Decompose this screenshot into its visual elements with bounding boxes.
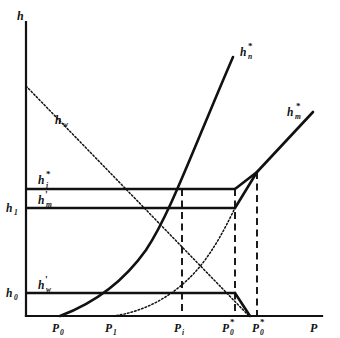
curve-label-hm-star-star: * [296,101,301,111]
hm-star-curve-group [113,112,313,316]
curve-label-hn-star-sub: n [248,52,252,61]
x-tick-label-P0star-b: P 0 * [252,317,265,337]
hm-star-curve-solid-segment [235,112,313,208]
y-tick-h0-base: h [6,287,12,299]
x-tick-P0star-b-sub: 0 [260,328,264,337]
level-label-hw-prime-base: h [38,279,44,291]
y-tick-h1-base: h [6,202,12,214]
chart-svg: h P h 1 h 0 P 0 P 1 P i P 0 * P [0,0,340,338]
hn-star-curve [60,57,233,316]
curve-label-hm-star-sub: m [295,112,301,121]
level-label-hw-prime-mark: ' [45,274,48,285]
x-tick-P0star-a-star: * [230,317,235,327]
x-tick-P0star-b-star: * [260,317,265,327]
level-label-hm-prime-base: h [38,194,44,206]
curve-label-hn-star-base: h [240,46,246,58]
x-tick-Pi-sub: i [182,328,185,337]
x-tick-P0-sub: 0 [60,328,64,337]
y-axis-title: h [17,9,24,23]
y-tick-h0-sub: 0 [14,293,18,302]
hj-kink-to-peak-segment [235,172,257,189]
y-tick-label-h1: h 1 [6,202,18,217]
x-tick-P0star-b-base: P [252,322,260,334]
x-tick-P0star-a-base: P [222,322,230,334]
y-tick-h1-sub: 1 [14,208,18,217]
axes [26,22,322,316]
curve-label-hm-star: h m * [287,101,301,121]
level-label-hm-prime-mark: ' [45,189,48,200]
curve-label-hw-base: h [55,114,61,126]
curve-label-hn-star-star: * [248,41,253,51]
vertical-dashed-lines [182,172,257,316]
level-label-hj-star-base: h [38,174,44,186]
level-lines [26,189,236,293]
curve-label-hm-star-base: h [287,106,293,118]
x-tick-P0-base: P [52,322,60,334]
level-label-hw-prime: h w ' [38,274,52,294]
x-tick-label-P0: P 0 [52,322,64,337]
level-label-hm-prime-sub: m [46,200,52,209]
curve-label-hw: h w [55,114,69,129]
x-tick-P1-base: P [105,322,113,334]
hm-star-curve-dotted-segment [113,208,235,316]
x-tick-label-P0star-a: P 0 * [222,317,235,337]
level-label-hj-star-star: * [46,169,51,179]
level-label-hj-star: h j * [38,169,51,190]
x-tick-Pi-base: P [174,322,182,334]
x-tick-label-P1: P 1 [105,322,117,337]
y-tick-label-h0: h 0 [6,287,18,302]
hn-star-curve-group [60,57,233,316]
connector-segments [235,172,257,316]
x-tick-P0star-a-sub: 0 [230,328,234,337]
x-tick-P1-sub: 1 [113,328,117,337]
x-tick-label-Pi: P i [174,322,185,337]
x-axis-title: P [310,321,318,335]
curve-label-hn-star: h n * [240,41,253,61]
level-label-hm-prime: h m ' [38,189,52,209]
chart-figure: h P h 1 h 0 P 0 P 1 P i P 0 * P [0,0,340,338]
curve-label-hw-sub: w [63,120,69,129]
